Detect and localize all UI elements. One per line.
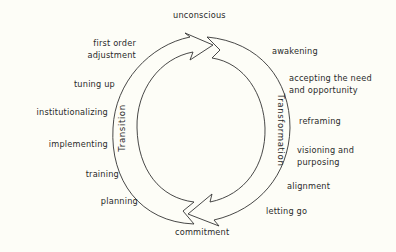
stage-line: and opportunity: [289, 85, 372, 97]
stage-implementing: implementing: [49, 139, 108, 151]
stage-first-order-adjustment: first order adjustment: [87, 38, 136, 61]
transformation-arrow: [188, 37, 290, 226]
bottom-label-commitment: commitment: [175, 227, 229, 239]
stage-institutionalizing: institutionalizing: [37, 107, 108, 119]
change-cycle-diagram: unconscious commitment Transition Transf…: [0, 0, 396, 252]
stage-alignment: alignment: [287, 181, 330, 193]
stage-line: visioning and: [297, 145, 354, 157]
top-label-unconscious: unconscious: [173, 10, 226, 22]
stage-letting-go: letting go: [266, 206, 307, 218]
stage-line: accepting the need: [289, 73, 372, 85]
stage-planning: planning: [101, 196, 138, 208]
stage-line: adjustment: [87, 50, 136, 62]
transition-label: Transition: [117, 104, 127, 152]
stage-line: first order: [87, 38, 136, 50]
stage-line: purposing: [297, 157, 354, 169]
stage-awakening: awakening: [272, 46, 318, 58]
transformation-label: Transformation: [276, 94, 286, 167]
stage-reframing: reframing: [299, 116, 341, 128]
stage-training: training: [86, 169, 119, 181]
stage-tuning-up: tuning up: [74, 79, 115, 91]
stage-visioning-and-purposing: visioning and purposing: [297, 145, 354, 168]
stage-accepting-the-need: accepting the need and opportunity: [289, 73, 372, 96]
